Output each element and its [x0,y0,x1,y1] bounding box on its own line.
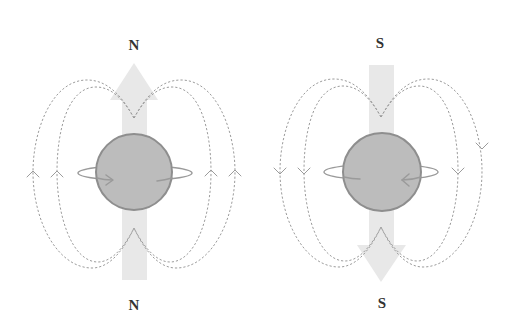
magnetic-dipole-diagram: N N [0,0,515,323]
bottom-pole-label: N [129,297,140,313]
sphere [343,133,421,211]
chevron-down-icon [476,143,488,149]
figure-south: S S [274,35,488,311]
sphere [96,134,172,210]
diagram-canvas: N N [0,0,515,323]
figure-north: N N [27,37,241,313]
bottom-pole-label: S [378,295,386,311]
top-pole-label: N [129,37,140,53]
top-pole-label: S [376,35,384,51]
